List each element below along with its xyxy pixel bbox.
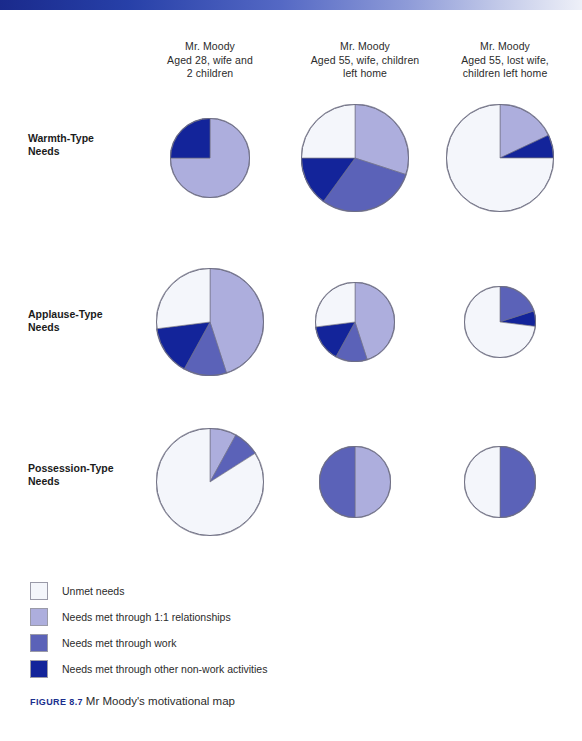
legend-swatch-work <box>30 634 48 652</box>
pie-chart-r0-c0 <box>170 118 250 198</box>
legend-label-other-non-work: Needs met through other non-work activit… <box>62 662 267 676</box>
legend-label-unmet: Unmet needs <box>62 584 124 598</box>
legend-item-one-to-one: Needs met through 1:1 relationships <box>30 604 450 630</box>
legend: Unmet needsNeeds met through 1:1 relatio… <box>30 578 450 682</box>
pie-chart-r1-c2 <box>464 286 536 358</box>
row-label-3-line1: Possession-Type <box>28 462 143 475</box>
pie-slice-unmet <box>156 268 210 329</box>
column-header-1-line3: 2 children <box>130 67 290 81</box>
column-header-1-line1: Mr. Moody <box>130 40 290 54</box>
row-label-applause-type-needs: Applause-Type Needs <box>28 308 143 334</box>
pie-chart-r1-c0 <box>156 268 264 376</box>
column-header-3: Mr. Moody Aged 55, lost wife, children l… <box>425 40 582 81</box>
column-header-2: Mr. Moody Aged 55, wife, children left h… <box>285 40 445 81</box>
column-header-2-line1: Mr. Moody <box>285 40 445 54</box>
legend-item-work: Needs met through work <box>30 630 450 656</box>
figure-caption-text: Mr Moody's motivational map <box>86 695 235 707</box>
pie-slice-work <box>319 446 355 518</box>
row-label-1-line2: Needs <box>28 145 143 158</box>
column-header-1: Mr. Moody Aged 28, wife and 2 children <box>130 40 290 81</box>
pie-slice-one-to-one <box>355 446 391 518</box>
legend-swatch-unmet <box>30 582 48 600</box>
pie-chart-r2-c0 <box>156 428 264 536</box>
column-header-2-line2: Aged 55, wife, children <box>285 54 445 68</box>
row-label-warmth-type-needs: Warmth-Type Needs <box>28 132 143 158</box>
row-label-2-line2: Needs <box>28 321 143 334</box>
row-label-2-line1: Applause-Type <box>28 308 143 321</box>
legend-swatch-other-non-work <box>30 660 48 678</box>
column-header-3-line2: Aged 55, lost wife, <box>425 54 582 68</box>
legend-label-one-to-one: Needs met through 1:1 relationships <box>62 610 231 624</box>
row-label-possession-type-needs: Possession-Type Needs <box>28 462 143 488</box>
legend-label-work: Needs met through work <box>62 636 176 650</box>
legend-item-other-non-work: Needs met through other non-work activit… <box>30 656 450 682</box>
pie-chart-r0-c2 <box>446 104 554 212</box>
row-label-1-line1: Warmth-Type <box>28 132 143 145</box>
pie-chart-r1-c1 <box>315 282 395 362</box>
pie-chart-r2-c2 <box>464 446 536 518</box>
pie-slice-unmet <box>315 282 355 327</box>
column-header-2-line3: left home <box>285 67 445 81</box>
row-label-3-line2: Needs <box>28 475 143 488</box>
figure-container: Mr. Moody Aged 28, wife and 2 children M… <box>0 10 582 741</box>
figure-caption-label: FIGURE 8.7 <box>30 697 83 707</box>
pie-slice-unmet <box>464 446 500 518</box>
legend-swatch-one-to-one <box>30 608 48 626</box>
column-header-3-line1: Mr. Moody <box>425 40 582 54</box>
pie-slice-work <box>500 446 536 518</box>
decorative-top-bar <box>0 0 582 10</box>
pie-chart-r2-c1 <box>319 446 391 518</box>
legend-item-unmet: Unmet needs <box>30 578 450 604</box>
column-header-1-line2: Aged 28, wife and <box>130 54 290 68</box>
pie-chart-r0-c1 <box>301 104 409 212</box>
figure-caption: FIGURE 8.7 Mr Moody's motivational map <box>30 695 450 707</box>
column-header-3-line3: children left home <box>425 67 582 81</box>
